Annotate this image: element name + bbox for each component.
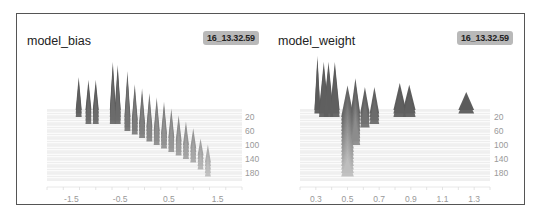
x-tick-label: 0.9	[405, 194, 417, 204]
y-tick-label: 140	[494, 154, 508, 164]
y-tick-label: 140	[245, 154, 259, 164]
panel-model-weight: 20601001401800.30.50.70.91.11.3 model_we…	[272, 14, 524, 204]
chart-title: model_bias	[27, 34, 91, 48]
grid-lines	[300, 110, 490, 180]
y-tick-label: 20	[494, 112, 504, 122]
y-tick-label: 180	[245, 168, 259, 178]
x-axis: 0.30.50.70.91.11.3	[300, 187, 490, 204]
y-tick-label: 100	[494, 140, 508, 150]
x-tick-label: -1.5	[64, 194, 79, 204]
y-tick-label: 60	[494, 126, 504, 136]
x-tick-label: 1.1	[437, 194, 449, 204]
y-tick-label: 100	[245, 140, 259, 150]
x-axis: -1.5-0.50.51.5	[47, 187, 242, 204]
chart-title: model_weight	[278, 34, 355, 48]
y-tick-label: 20	[245, 112, 255, 122]
x-tick-label: 0.3	[310, 194, 322, 204]
x-tick-label: -0.5	[113, 194, 128, 204]
run-badge: 16_13.32.59	[457, 31, 513, 45]
run-badge: 16_13.32.59	[203, 31, 259, 45]
x-tick-label: 0.5	[342, 194, 354, 204]
y-axis-labels: 2060100140180	[245, 112, 259, 178]
x-tick-label: 1.3	[468, 194, 480, 204]
x-tick-label: 0.7	[373, 194, 385, 204]
y-axis-labels: 2060100140180	[494, 112, 508, 178]
x-tick-label: 1.5	[212, 194, 224, 204]
panel-model-bias: 2060100140180-1.5-0.50.51.5 model_bias 1…	[17, 14, 272, 204]
y-tick-label: 180	[494, 168, 508, 178]
x-tick-label: 0.5	[163, 194, 175, 204]
y-tick-label: 60	[245, 126, 255, 136]
histograms-frame: 2060100140180-1.5-0.50.51.5 model_bias 1…	[16, 13, 525, 205]
histogram-ridges	[314, 56, 474, 177]
